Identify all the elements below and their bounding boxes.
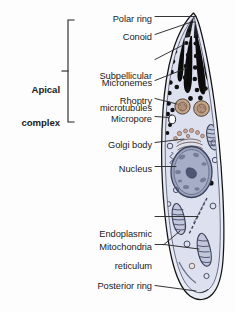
apical-complex-label-line1: Apical (0, 84, 60, 95)
label-posterior-ring: Posterior ring (62, 281, 152, 292)
label-conoid: Conoid (74, 32, 152, 43)
micropore-structure (169, 115, 176, 125)
label-mitochondria: Mitochondria (62, 242, 152, 253)
label-nucleus: Nucleus (74, 164, 152, 175)
figure-apicomplexan-cell: Apical complex Polar ring Conoid Subpell… (0, 0, 235, 312)
label-er-line1: Endoplasmic (62, 229, 152, 240)
label-rhoptry: Rhoptry (74, 96, 152, 107)
apical-complex-label-line2: complex (0, 117, 60, 128)
apical-complex-label: Apical complex (0, 62, 60, 150)
cell-body (162, 13, 224, 300)
nucleus-structure (171, 147, 212, 198)
label-micronemes: Micronemes (70, 78, 152, 89)
label-polar-ring: Polar ring (74, 14, 152, 25)
label-golgi-body: Golgi body (72, 140, 152, 151)
label-micropore: Micropore (72, 114, 152, 125)
label-er-line2: reticulum (62, 261, 152, 272)
